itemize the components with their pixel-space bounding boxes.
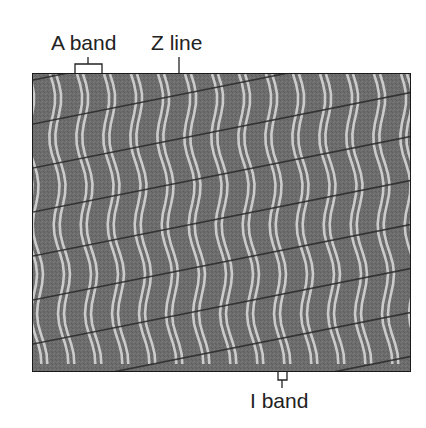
i-band-bracket <box>278 372 287 388</box>
a-band-bracket <box>75 57 102 73</box>
muscle-micrograph <box>32 73 411 372</box>
striation-pattern <box>33 74 411 372</box>
